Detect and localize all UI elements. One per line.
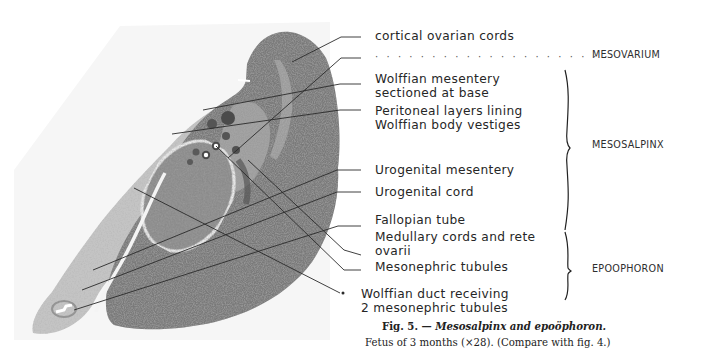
label-medullary-cords: Medullary cords and rete ovarii	[375, 230, 535, 258]
label-wolffian-duct: Wolffian duct receiving 2 mesonephric tu…	[361, 287, 509, 315]
label-peritoneal-layers: Peritoneal layers lining Wolffian body v…	[375, 104, 523, 132]
figure-title: Mesosalpinx and epoöphoron.	[435, 320, 606, 332]
label-line: 2 mesonephric tubules	[361, 301, 509, 315]
label-fallopian-tube: Fallopian tube	[375, 213, 465, 227]
label-line: ovarii	[375, 244, 535, 258]
label-dotted-line: · · · · · · · · · · · · · · · · · · · · …	[375, 51, 610, 62]
label-urogenital-cord: Urogenital cord	[375, 185, 474, 199]
label-mesonephric-tubules: Mesonephric tubules	[375, 260, 508, 274]
label-line: Peritoneal layers lining	[375, 104, 523, 118]
label-line: Wolffian mesentery	[375, 72, 500, 86]
ovary-slit	[238, 80, 250, 81]
region-epoophoron: EPOOPHORON	[592, 263, 664, 274]
figure-caption-subtitle: Fetus of 3 months (×28). (Compare with f…	[365, 337, 611, 348]
label-cortical-ovarian-cords: cortical ovarian cords	[375, 29, 514, 43]
figure-caption-title: Fig. 5. — Mesosalpinx and epoöphoron.	[382, 320, 606, 332]
label-line: Wolffian body vestiges	[375, 118, 523, 132]
region-braces	[565, 70, 571, 300]
figure-number: Fig. 5. —	[382, 320, 432, 332]
label-line: Wolffian duct receiving	[361, 287, 509, 301]
label-wolffian-mesentery: Wolffian mesentery sectioned at base	[375, 72, 500, 100]
region-mesovarium: MESOVARIUM	[592, 49, 660, 60]
wolffian-duct-dot	[342, 292, 345, 295]
label-line: sectioned at base	[375, 86, 500, 100]
label-line: Medullary cords and rete	[375, 230, 535, 244]
region-mesosalpinx: MESOSALPINX	[592, 139, 664, 150]
label-urogenital-mesentery: Urogenital mesentery	[375, 163, 514, 177]
